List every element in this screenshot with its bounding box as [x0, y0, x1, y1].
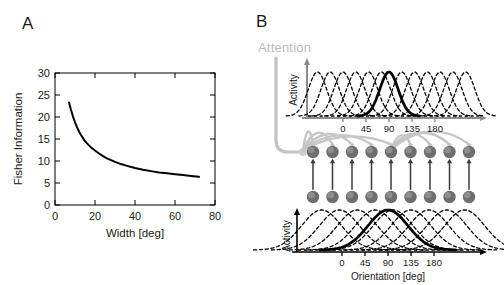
neuron-highlight — [386, 147, 392, 153]
attention-network-diagram: 0 45 90 135 180 Activity — [250, 0, 504, 285]
x-tick-label: 135 — [404, 123, 420, 134]
feedforward-arrowhead — [388, 159, 393, 164]
bottom-plot-y-axis-title: Activity — [281, 220, 292, 252]
y-axis-ticks-panel-a — [55, 73, 215, 205]
y-tick-label: 0 — [44, 199, 50, 211]
neuron-highlight — [367, 147, 373, 153]
fisher-information-chart: 0 5 10 15 20 25 30 0 20 40 60 80 Width [… — [0, 45, 250, 285]
y-tick-label: 30 — [38, 67, 50, 79]
x-tick-label: 60 — [169, 210, 181, 222]
neuron-highlight — [386, 192, 392, 198]
bottom-tuning-plot: 0 45 90 135 180 Activity Orientation [de… — [254, 208, 504, 282]
x-tick-label: 0 — [339, 257, 344, 268]
x-axis-ticks-panel-a — [55, 73, 215, 205]
neuron-highlight — [445, 147, 451, 153]
feedforward-arrowhead — [330, 159, 335, 164]
x-tick-label: 20 — [89, 210, 101, 222]
x-tick-label: 45 — [361, 123, 372, 134]
feedforward-arrowhead — [447, 159, 452, 164]
x-tick-label: 80 — [209, 210, 221, 222]
tuning-curve-dashed — [434, 72, 496, 116]
y-tick-label: 15 — [38, 133, 50, 145]
tuning-curve-dashed — [337, 72, 399, 116]
figure-root: A — [0, 0, 504, 285]
neuron-highlight — [308, 147, 314, 153]
plot-box-panel-a — [55, 73, 215, 205]
top-plot-x-tick-labels: 0 45 90 135 180 — [340, 123, 443, 134]
neuron-highlight — [406, 192, 412, 198]
feedforward-arrowhead — [427, 159, 432, 164]
top-tuning-plot: 0 45 90 135 180 Activity — [286, 58, 496, 134]
bottom-neuron-row — [307, 191, 475, 203]
x-axis-title-panel-a: Width [deg] — [106, 227, 164, 239]
panel-a-label: A — [22, 14, 33, 34]
x-axis-tick-labels-panel-a: 0 20 40 60 80 — [52, 210, 221, 222]
top-plot-tuning-curves — [286, 72, 496, 116]
neuron-highlight — [464, 147, 470, 153]
neuron-highlight — [328, 147, 334, 153]
bottom-plot-x-tick-labels: 0 45 90 135 180 — [339, 257, 442, 268]
y-tick-label: 25 — [38, 89, 50, 101]
neuron-highlight — [308, 192, 314, 198]
neuron-highlight — [367, 192, 373, 198]
y-tick-label: 5 — [44, 177, 50, 189]
neuron-highlight — [328, 192, 334, 198]
top-plot-y-arrow — [304, 58, 310, 65]
x-tick-label: 0 — [52, 210, 58, 222]
neuron-highlight — [347, 147, 353, 153]
neuron-highlight — [445, 192, 451, 198]
neuron-highlight — [425, 147, 431, 153]
tuning-curve-dashed — [422, 72, 484, 116]
top-plot-y-axis-title: Activity — [288, 74, 299, 106]
bottom-plot-x-axis-title: Orientation [deg] — [351, 271, 425, 282]
x-tick-label: 180 — [426, 257, 442, 268]
bottom-plot-x-arrow — [480, 249, 487, 255]
tuning-curve-dashed — [350, 72, 412, 116]
bottom-plot-y-arrow — [294, 208, 300, 215]
neuron-highlight — [464, 192, 470, 198]
tuning-curve-dashed — [299, 72, 361, 116]
top-neuron-row — [307, 146, 475, 158]
tuning-curve-dashed — [312, 72, 374, 116]
feedforward-arrowhead — [310, 159, 315, 164]
feedforward-connections — [310, 159, 471, 190]
x-tick-label: 0 — [340, 123, 345, 134]
feedforward-arrowhead — [349, 159, 354, 164]
panel-a: A — [0, 0, 250, 285]
x-tick-label: 45 — [360, 257, 371, 268]
x-tick-label: 40 — [129, 210, 141, 222]
x-tick-label: 180 — [427, 123, 443, 134]
tuning-curve-dashed — [409, 72, 471, 116]
y-axis-tick-labels-panel-a: 0 5 10 15 20 25 30 — [38, 67, 50, 211]
neuron-highlight — [347, 192, 353, 198]
y-tick-label: 10 — [38, 155, 50, 167]
fisher-information-curve — [69, 102, 199, 176]
y-axis-title-panel-a: Fisher Information — [12, 93, 24, 186]
feedforward-arrowhead — [369, 159, 374, 164]
x-tick-label: 90 — [384, 123, 395, 134]
neuron-highlight — [425, 192, 431, 198]
neuron-highlight — [406, 147, 412, 153]
x-tick-label: 90 — [383, 257, 394, 268]
feedforward-arrowhead — [408, 159, 413, 164]
x-tick-label: 135 — [403, 257, 419, 268]
y-tick-label: 20 — [38, 111, 50, 123]
feedforward-arrowhead — [466, 159, 471, 164]
panel-b: B Attention — [250, 0, 504, 285]
